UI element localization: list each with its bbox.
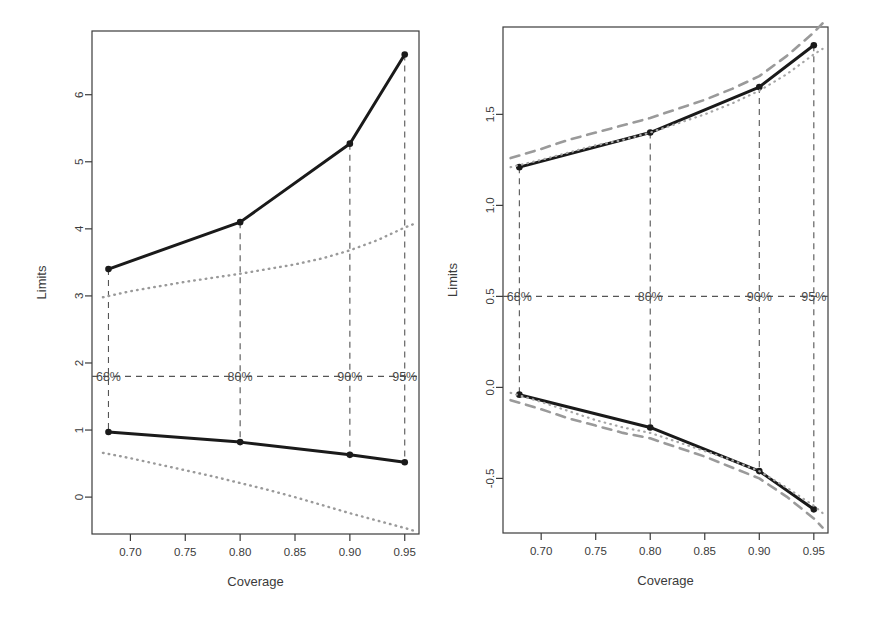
- y-tick-label: 1.5: [484, 106, 496, 122]
- data-point-marker: [237, 219, 244, 226]
- data-point-marker: [401, 51, 408, 58]
- data-point-marker: [347, 140, 354, 147]
- x-tick-label: 0.70: [119, 546, 141, 558]
- data-point-marker: [105, 429, 112, 436]
- annotation-label: 95%: [801, 290, 826, 304]
- data-point-marker: [401, 459, 408, 466]
- y-tick-label: 2: [73, 360, 85, 366]
- y-tick-label: 4: [73, 225, 85, 232]
- y-tick-label: 0.5: [484, 288, 496, 304]
- y-tick-label: 3: [73, 293, 85, 299]
- figure-root: 01234560.700.750.800.850.900.95CoverageL…: [0, 0, 870, 629]
- x-tick-label: 0.85: [284, 546, 306, 558]
- data-point-marker: [237, 439, 244, 446]
- x-tick-label: 0.90: [339, 546, 361, 558]
- annotation-label: 68%: [96, 370, 121, 384]
- y-tick-label: 5: [73, 159, 85, 165]
- annotation-label: 90%: [337, 370, 362, 384]
- y-tick-label: 6: [73, 92, 85, 98]
- data-point-marker: [811, 506, 818, 513]
- y-axis-title: Limits: [34, 265, 49, 299]
- x-tick-label: 0.95: [803, 545, 825, 557]
- y-tick-label: 1: [73, 427, 85, 433]
- x-axis-title: Coverage: [637, 573, 693, 588]
- dual-panel-line-chart: 01234560.700.750.800.850.900.95CoverageL…: [0, 0, 870, 629]
- y-tick-label: 1.0: [484, 197, 496, 213]
- x-axis-title: Coverage: [227, 574, 283, 589]
- x-tick-label: 0.90: [748, 545, 770, 557]
- x-tick-label: 0.80: [639, 545, 661, 557]
- x-tick-label: 0.70: [530, 545, 552, 557]
- x-tick-label: 0.75: [174, 546, 196, 558]
- y-axis-title: Limits: [445, 263, 460, 297]
- data-point-marker: [647, 424, 654, 431]
- data-point-marker: [347, 452, 354, 459]
- annotation-label: 68%: [507, 290, 532, 304]
- data-point-marker: [105, 266, 112, 273]
- y-tick-label: -0.5: [484, 468, 496, 488]
- x-tick-label: 0.85: [694, 545, 716, 557]
- x-tick-label: 0.80: [229, 546, 251, 558]
- annotation-label: 95%: [392, 370, 417, 384]
- annotation-label: 80%: [638, 290, 663, 304]
- data-point-marker: [756, 84, 763, 91]
- x-tick-label: 0.75: [585, 545, 607, 557]
- y-tick-label: 0.0: [484, 379, 496, 395]
- data-point-marker: [811, 42, 818, 49]
- x-tick-label: 0.95: [394, 546, 416, 558]
- annotation-label: 80%: [228, 370, 253, 384]
- y-tick-label: 0: [73, 494, 85, 500]
- annotation-label: 90%: [747, 290, 772, 304]
